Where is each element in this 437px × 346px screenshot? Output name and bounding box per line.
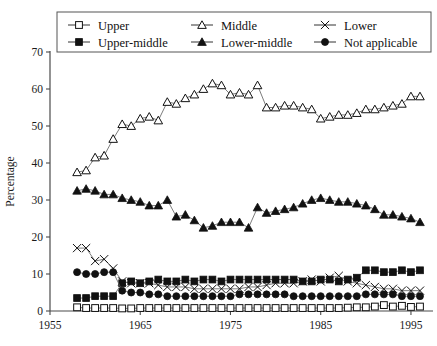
data-point: [299, 278, 306, 285]
y-tick-label: 50: [32, 120, 44, 132]
data-point: [298, 200, 307, 208]
data-point: [191, 278, 198, 285]
data-point: [272, 276, 279, 283]
data-point: [371, 283, 379, 291]
data-point: [263, 305, 270, 312]
data-point: [389, 211, 398, 219]
data-point: [398, 293, 405, 300]
data-point: [362, 267, 369, 274]
data-point: [209, 305, 216, 312]
data-point: [316, 194, 325, 202]
data-point: [326, 276, 333, 283]
data-point: [289, 203, 298, 211]
data-point: [417, 267, 424, 274]
data-point: [299, 293, 306, 300]
data-point: [128, 305, 135, 312]
data-point: [76, 22, 83, 29]
data-point: [199, 85, 208, 93]
data-point: [362, 304, 369, 311]
data-point: [399, 302, 406, 309]
data-point: [91, 257, 99, 265]
data-point: [353, 293, 360, 300]
data-point: [326, 293, 333, 300]
data-point: [227, 305, 234, 312]
y-tick-label: 20: [32, 231, 44, 243]
data-point: [380, 302, 387, 309]
x-tick-label: 1965: [129, 319, 152, 331]
data-point: [227, 276, 234, 283]
legend-label: Middle: [221, 19, 258, 33]
data-point: [218, 278, 225, 285]
data-point: [200, 293, 207, 300]
data-point: [137, 280, 144, 287]
data-point: [227, 293, 234, 300]
data-point: [137, 289, 144, 296]
data-point: [208, 79, 217, 87]
legend-label: Upper-middle: [98, 36, 168, 50]
y-tick-label: 40: [32, 157, 44, 169]
data-point: [164, 278, 171, 285]
legend-label: Lower: [344, 19, 377, 33]
data-point: [281, 305, 288, 312]
data-point: [128, 278, 135, 285]
data-point: [200, 305, 207, 312]
data-point: [362, 291, 369, 298]
data-point: [244, 224, 253, 232]
data-point: [155, 305, 162, 312]
data-point: [371, 303, 378, 310]
y-tick-label: 0: [37, 305, 43, 317]
data-point: [236, 305, 243, 312]
data-point: [263, 291, 270, 298]
data-point: [100, 255, 108, 263]
data-point: [145, 201, 154, 209]
data-point: [236, 276, 243, 283]
data-point: [390, 269, 397, 276]
legend-label: Upper: [98, 19, 130, 33]
data-point: [272, 305, 279, 312]
data-point: [290, 293, 297, 300]
data-point: [146, 305, 153, 312]
data-point: [82, 185, 91, 193]
data-point: [308, 278, 315, 285]
chart-root: 01020304050607019551965197519851995Perce…: [0, 0, 437, 346]
data-point: [200, 276, 207, 283]
data-point: [182, 305, 189, 312]
data-point: [110, 305, 117, 312]
data-point: [245, 305, 252, 312]
data-point: [380, 211, 389, 219]
data-point: [317, 293, 324, 300]
y-tick-label: 10: [32, 268, 44, 280]
data-point: [322, 39, 329, 46]
data-point: [164, 293, 171, 300]
data-point: [218, 293, 225, 300]
data-point: [154, 201, 163, 209]
data-point: [191, 293, 198, 300]
data-point: [101, 269, 108, 276]
data-point: [407, 293, 414, 300]
data-point: [353, 109, 362, 117]
data-point: [317, 276, 324, 283]
data-point: [290, 305, 297, 312]
data-point: [92, 305, 99, 312]
series-lower-middle: [73, 185, 425, 231]
data-point: [74, 304, 81, 311]
series-upper: [74, 302, 424, 312]
data-point: [119, 287, 126, 294]
data-point: [218, 305, 225, 312]
data-point: [164, 305, 171, 312]
data-point: [118, 194, 127, 202]
data-point: [163, 98, 172, 106]
data-point: [146, 278, 153, 285]
data-point: [83, 271, 90, 278]
data-point: [253, 81, 262, 89]
x-tick-label: 1995: [399, 319, 422, 331]
data-point: [380, 269, 387, 276]
data-point: [390, 303, 397, 310]
data-point: [380, 291, 387, 298]
data-point: [408, 304, 415, 311]
data-point: [154, 116, 163, 124]
y-axis-title: Percentage: [4, 156, 17, 206]
data-point: [146, 291, 153, 298]
y-tick-label: 70: [32, 46, 44, 58]
data-point: [308, 293, 315, 300]
